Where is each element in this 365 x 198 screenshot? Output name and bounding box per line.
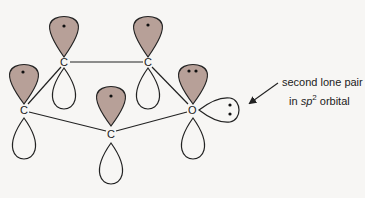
atom-c3: C bbox=[97, 87, 126, 185]
p-orbital-top-lobe bbox=[50, 17, 79, 58]
atom-label: O bbox=[188, 104, 197, 116]
p-orbital-top-lobe bbox=[97, 87, 126, 127]
atom-label: C bbox=[60, 56, 68, 68]
electron-dot bbox=[194, 69, 197, 72]
p-orbital-top-lobe bbox=[10, 65, 39, 105]
atom-c2: C bbox=[134, 17, 163, 110]
atom-c4: C bbox=[10, 65, 39, 160]
annotation-line-1: second lone pair bbox=[282, 76, 363, 89]
electron-dot bbox=[146, 23, 149, 26]
p-orbital-bottom-lobe bbox=[136, 68, 159, 109]
p-orbital-bottom-lobe bbox=[181, 118, 204, 159]
p-orbital-bottom-lobe bbox=[12, 118, 35, 159]
annotation-arrow bbox=[250, 83, 278, 103]
electron-dot bbox=[228, 103, 231, 106]
bond-c3-o bbox=[116, 112, 187, 131]
atom-label: C bbox=[107, 128, 115, 140]
atom-oxygen: O bbox=[179, 65, 239, 160]
electron-dot bbox=[62, 24, 65, 27]
electron-dot bbox=[187, 69, 190, 72]
annotation-suffix: orbital bbox=[317, 95, 350, 107]
electron-dot bbox=[109, 94, 112, 97]
electron-dot bbox=[228, 112, 231, 115]
p-orbital-bottom-lobe bbox=[99, 143, 122, 184]
atom-c1: C bbox=[50, 17, 79, 110]
atom-label: C bbox=[144, 56, 152, 68]
p-orbital-bottom-lobe bbox=[52, 68, 75, 109]
annotation-line-2: in sp2 orbital bbox=[289, 91, 350, 108]
sp2-orbital-lobe bbox=[199, 98, 239, 122]
atom-label: C bbox=[20, 104, 28, 116]
annotation-sp: sp bbox=[301, 95, 313, 107]
electron-dot bbox=[21, 70, 24, 73]
bond-c4-c3 bbox=[29, 112, 106, 131]
annotation-prefix: in bbox=[289, 95, 301, 107]
p-orbital-top-lobe bbox=[134, 17, 163, 58]
